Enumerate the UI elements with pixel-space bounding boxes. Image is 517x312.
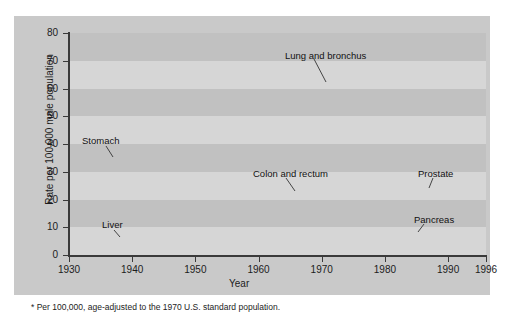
leader-line xyxy=(106,146,113,157)
leader-line xyxy=(114,230,120,237)
series-label: Colon and rectum xyxy=(253,169,328,179)
chart-card: 01020304050607080 1930194019501960197019… xyxy=(14,16,490,295)
leader-line xyxy=(418,224,424,232)
series-label: Liver xyxy=(102,220,123,230)
series-label: Prostate xyxy=(418,169,453,179)
leader-line xyxy=(286,178,295,191)
series-label: Stomach xyxy=(82,136,120,146)
leader-line xyxy=(314,59,326,82)
footnote: * Per 100,000, age-adjusted to the 1970 … xyxy=(31,302,280,312)
series-label: Pancreas xyxy=(414,215,454,225)
series-label: Lung and bronchus xyxy=(285,51,366,61)
leader-lines xyxy=(14,16,490,295)
leader-line xyxy=(429,178,433,188)
